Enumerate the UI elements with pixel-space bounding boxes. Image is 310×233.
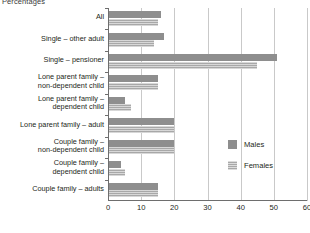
bar-series-group <box>108 8 307 201</box>
category-axis-labels: AllSingle – other adultSingle – pensione… <box>0 8 104 201</box>
category-tick <box>105 158 108 159</box>
value-axis-tick-label: 60 <box>303 203 310 212</box>
bar-females <box>108 40 154 47</box>
bar-group <box>108 115 307 136</box>
bar-males <box>108 183 158 190</box>
bar-males <box>108 11 161 18</box>
plot-area <box>108 8 307 201</box>
bar-females <box>108 126 174 133</box>
bar-males <box>108 118 174 125</box>
category-label: Single – pensioner <box>0 56 104 65</box>
value-axis-tick-label: 30 <box>203 203 211 212</box>
bar-group <box>108 51 307 72</box>
legend-swatch-males <box>228 140 237 149</box>
category-tick <box>105 29 108 30</box>
bar-females <box>108 83 158 90</box>
bar-males <box>108 140 174 147</box>
bar-females <box>108 104 131 111</box>
legend-item: Males <box>228 140 273 149</box>
bar-chart: Percentages AllSingle – other adultSingl… <box>0 0 310 233</box>
gridline <box>307 8 308 201</box>
category-label: Lone parent family – adult <box>0 121 104 130</box>
bar-females <box>108 190 158 197</box>
bar-males <box>108 161 121 168</box>
category-tick <box>105 8 108 9</box>
category-label: Couple family – non-dependent child <box>0 138 104 155</box>
value-axis-tick-label: 10 <box>137 203 145 212</box>
value-axis-line <box>108 8 109 201</box>
category-tick <box>105 180 108 181</box>
bar-males <box>108 33 164 40</box>
value-axis-tick-label: 50 <box>270 203 278 212</box>
bar-group <box>108 180 307 201</box>
category-label: Couple family – dependent child <box>0 159 104 176</box>
legend-item: Females <box>228 161 273 170</box>
category-label: Lone parent family – non-dependent child <box>0 73 104 90</box>
value-axis-tick-labels: 0102030405060 <box>0 203 310 217</box>
category-label: All <box>0 13 104 22</box>
bar-males <box>108 54 277 61</box>
legend-label: Males <box>244 140 264 149</box>
category-tick <box>105 94 108 95</box>
bar-group <box>108 72 307 93</box>
bar-males <box>108 97 125 104</box>
category-tick <box>105 115 108 116</box>
category-label: Lone parent family – dependent child <box>0 95 104 112</box>
bar-females <box>108 147 174 154</box>
category-tick <box>105 137 108 138</box>
chart-title: Percentages <box>2 0 45 6</box>
baseline-axis <box>108 200 307 201</box>
value-axis-tick-label: 20 <box>170 203 178 212</box>
value-axis-tick-label: 40 <box>236 203 244 212</box>
bar-males <box>108 75 158 82</box>
bar-females <box>108 169 125 176</box>
bar-group <box>108 29 307 50</box>
category-tick <box>105 51 108 52</box>
bar-group <box>108 137 307 158</box>
chart-legend: MalesFemales <box>228 140 273 182</box>
value-axis-tick-label: 0 <box>106 203 110 212</box>
bar-females <box>108 62 257 69</box>
bar-group <box>108 158 307 179</box>
category-tick <box>105 72 108 73</box>
category-label: Couple family – adults <box>0 185 104 194</box>
legend-swatch-females <box>228 161 237 170</box>
bar-group <box>108 8 307 29</box>
legend-label: Females <box>244 161 273 170</box>
bar-group <box>108 94 307 115</box>
bar-females <box>108 19 158 26</box>
category-label: Single – other adult <box>0 35 104 44</box>
